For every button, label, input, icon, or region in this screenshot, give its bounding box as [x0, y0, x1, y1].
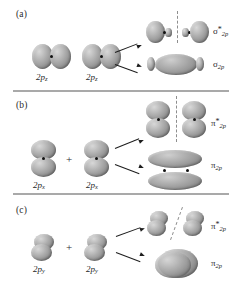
- orbital-lobe: [31, 244, 52, 261]
- plus-operator-c: +: [66, 241, 72, 253]
- orbital-lobe: [31, 157, 56, 177]
- panel-b-label: (b): [16, 100, 28, 110]
- orbital-lobe-central: [155, 252, 191, 278]
- nucleus-dot: [50, 55, 53, 58]
- nucleus-dot: [157, 118, 160, 121]
- orbital-lobe: [50, 44, 71, 69]
- mo-label-sigma-2p: σ2p: [213, 59, 224, 70]
- atomic-label-subscript: y: [42, 267, 45, 274]
- panel-c-label: (c): [16, 205, 27, 215]
- plus-operator-b: +: [66, 153, 72, 165]
- mo-subscript: 2p: [216, 164, 223, 171]
- atomic-orbital-c-2-label: 2py: [86, 264, 98, 274]
- nucleus-dot: [100, 55, 103, 58]
- atomic-label-subscript: y: [95, 267, 98, 274]
- mo-subscript: 2p: [222, 30, 229, 37]
- nucleus-dot: [163, 31, 166, 34]
- mo-label-pi-star-2p-c: π*2p: [211, 220, 226, 232]
- atomic-label-subscript: z: [95, 75, 98, 82]
- atomic-label-base: 2p: [36, 72, 45, 82]
- orbital-lobe: [84, 244, 105, 261]
- atomic-label-base: 2p: [86, 180, 95, 190]
- atomic-orbital-a-1-label: 2pz: [36, 72, 48, 82]
- atomic-label-subscript: z: [45, 75, 48, 82]
- atomic-label-base: 2p: [33, 180, 42, 190]
- orbital-lobe-central: [148, 172, 202, 190]
- atomic-label-subscript: x: [42, 183, 45, 190]
- arrow-to-antibonding-a: [115, 46, 143, 58]
- orbital-lobe: [182, 118, 206, 138]
- nodal-plane-line: [176, 96, 177, 142]
- nodal-plane-line: [177, 11, 178, 43]
- atomic-label-base: 2p: [86, 72, 95, 82]
- mo-subscript: 2p: [220, 225, 227, 232]
- panel-divider-1: [13, 90, 229, 92]
- mo-label-pi-2p-c: π2p: [211, 258, 222, 269]
- orbital-lobe-small: [147, 57, 155, 71]
- nucleus-dot: [42, 157, 45, 160]
- orbital-lobe: [146, 118, 170, 138]
- orbital-lobe-central: [148, 150, 202, 168]
- nucleus-dot: [193, 118, 196, 121]
- atomic-orbital-a-2-label: 2pz: [86, 72, 98, 82]
- nucleus-dot: [95, 157, 98, 160]
- panel-divider-2: [13, 193, 229, 195]
- mo-subscript: 2p: [218, 63, 225, 70]
- orbital-lobe: [190, 21, 209, 43]
- arrow-to-bonding-a: [115, 58, 143, 70]
- arrow-to-antibonding-b: [115, 142, 145, 154]
- orbital-lobe-small: [165, 28, 172, 37]
- mo-label-sigma-star-2p: σ*2p: [213, 25, 228, 37]
- panel-b: (b) 2px + 2px π*2p: [0, 96, 245, 196]
- atomic-orbital-c-1-label: 2py: [33, 264, 45, 274]
- panel-a: (a) 2pz 2pz σ*2p: [0, 0, 245, 96]
- arrow-to-bonding-b: [115, 158, 145, 170]
- arrow-to-bonding-c: [116, 246, 146, 258]
- mo-label-pi-2p-b: π2p: [211, 160, 222, 171]
- atomic-label-base: 2p: [33, 264, 42, 274]
- mo-label-pi-star-2p-b: π*2p: [211, 117, 226, 129]
- nucleus-dot: [186, 169, 189, 172]
- orbital-lobe-small: [196, 57, 204, 71]
- atomic-label-base: 2p: [86, 264, 95, 274]
- orbital-lobe: [183, 220, 202, 236]
- atomic-label-subscript: x: [95, 183, 98, 190]
- panel-a-label: (a): [16, 9, 27, 19]
- nodal-plane-line: [170, 207, 183, 240]
- mo-subscript: 2p: [220, 122, 227, 129]
- orbital-lobe: [84, 157, 109, 177]
- orbital-lobe: [147, 220, 166, 236]
- mo-subscript: 2p: [216, 262, 223, 269]
- atomic-orbital-b-1-label: 2px: [33, 180, 45, 190]
- arrow-to-antibonding-c: [116, 230, 146, 242]
- panel-c: (c) 2py + 2py π*2p π2p: [0, 196, 245, 288]
- orbital-lobe-central: [155, 54, 197, 75]
- atomic-orbital-b-2-label: 2px: [86, 180, 98, 190]
